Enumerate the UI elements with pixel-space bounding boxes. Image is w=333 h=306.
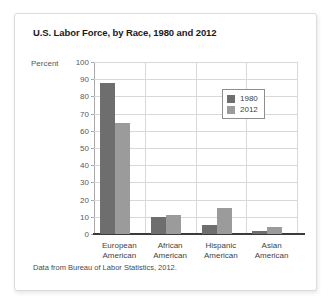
- y-tick-label: 0: [85, 230, 89, 239]
- legend-item-2012: 2012: [227, 104, 258, 115]
- y-tick-label: 40: [80, 161, 89, 170]
- y-tick-label: 30: [80, 178, 89, 187]
- y-tick-label: 90: [80, 75, 89, 84]
- bar-2012: [115, 123, 130, 234]
- y-tick-label: 50: [80, 144, 89, 153]
- category-label: AsianAmerican: [238, 241, 306, 261]
- bar-2012: [217, 208, 232, 234]
- y-tick-label: 20: [80, 195, 89, 204]
- category-separator: [297, 62, 298, 234]
- bar-group: [196, 62, 247, 234]
- bar-group: [246, 62, 297, 234]
- bar-group: [94, 62, 145, 234]
- chart-title: U.S. Labor Force, by Race, 1980 and 2012: [33, 27, 216, 38]
- bar-1980: [100, 83, 115, 234]
- legend-item-1980: 1980: [227, 93, 258, 104]
- chart-card: U.S. Labor Force, by Race, 1980 and 2012…: [14, 13, 317, 291]
- legend-swatch-1980-icon: [227, 95, 235, 103]
- bar-group: [145, 62, 196, 234]
- legend-label-1980: 1980: [240, 94, 258, 103]
- y-tick-label: 10: [80, 212, 89, 221]
- bar-1980: [202, 225, 217, 234]
- y-tick-label: 70: [80, 109, 89, 118]
- y-axis-label: Percent: [31, 59, 59, 68]
- y-tick-label: 80: [80, 92, 89, 101]
- source-note: Data from Bureau of Labor Statistics, 20…: [33, 263, 177, 272]
- y-tick-label: 100: [76, 58, 89, 67]
- bar-1980: [151, 217, 166, 234]
- bar-1980: [252, 231, 267, 234]
- plot-area: 0102030405060708090100 EuropeanAmericanA…: [94, 62, 297, 234]
- bar-2012: [166, 215, 181, 234]
- legend-swatch-2012-icon: [227, 106, 235, 114]
- y-tick-label: 60: [80, 126, 89, 135]
- bar-2012: [267, 227, 282, 234]
- legend-label-2012: 2012: [240, 105, 258, 114]
- chart-legend: 1980 2012: [222, 89, 265, 119]
